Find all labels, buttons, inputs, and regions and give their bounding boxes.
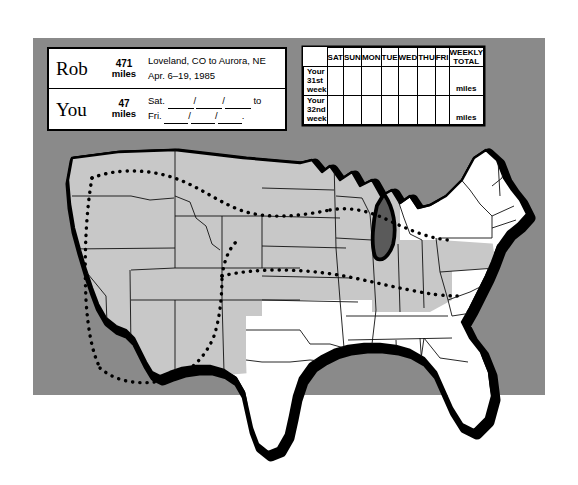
cell-week31-sun[interactable] — [343, 67, 361, 96]
cell-week32-sat[interactable] — [327, 96, 343, 125]
cell-week31-wed[interactable] — [398, 67, 418, 96]
cell-week32-fri[interactable] — [435, 96, 449, 125]
rob-date-text: Apr. 6–19, 1985 — [148, 69, 281, 84]
info-row-rob: Rob 471 miles Loveland, CO to Aurora, NE… — [49, 49, 285, 89]
row-label-week-32: Your 32nd week — [304, 96, 328, 125]
column-header-wed: WED — [398, 48, 418, 67]
you-start-day-label: Sat. — [148, 95, 165, 106]
info-row-you: You 47 miles Sat. // to Fri. //. — [49, 89, 285, 129]
you-miles-unit: miles — [104, 109, 144, 119]
cell-week32-tue[interactable] — [381, 96, 398, 125]
column-header-weekly-total: WEEKLY TOTAL — [449, 48, 483, 67]
rob-route-text: Loveland, CO to Aurora, NE — [148, 54, 281, 69]
you-name-label: You — [49, 100, 104, 119]
you-end-day-blank[interactable] — [191, 123, 215, 124]
row-label-week-31-line3: week — [307, 86, 327, 95]
row-label-week-31: Your 31st week — [304, 67, 328, 96]
weekly-mileage-table: SAT SUN MON TUE WED THU FRI WEEKLY TOTAL… — [303, 47, 484, 125]
weekly-table-header-row: SAT SUN MON TUE WED THU FRI WEEKLY TOTAL — [304, 48, 484, 67]
column-header-sun: SUN — [343, 48, 361, 67]
cell-week31-sat[interactable] — [327, 67, 343, 96]
cell-week32-total[interactable]: miles — [449, 96, 483, 125]
weekly-table-body: Your 31st week miles Your 32nd week — [304, 67, 484, 125]
table-row: Your 31st week miles — [304, 67, 484, 96]
row-label-week-32-line3: week — [307, 115, 327, 124]
cell-week32-thu[interactable] — [418, 96, 435, 125]
rob-name-label: Rob — [49, 59, 104, 78]
cell-week31-thu[interactable] — [418, 67, 435, 96]
weekly-table-head: SAT SUN MON TUE WED THU FRI WEEKLY TOTAL — [304, 48, 484, 67]
rob-miles-unit: miles — [104, 69, 144, 79]
column-header-fri: FRI — [435, 48, 449, 67]
you-start-to-label: to — [253, 95, 261, 106]
rob-miles-block: 471 miles — [104, 59, 144, 79]
cell-week31-tue[interactable] — [381, 67, 398, 96]
you-end-period: . — [242, 110, 245, 121]
you-date-fields: Sat. // to Fri. //. — [144, 94, 285, 123]
you-end-year-blank[interactable] — [218, 123, 242, 124]
cell-week31-total[interactable]: miles — [449, 67, 483, 96]
you-start-date-row: Sat. // to — [148, 94, 281, 109]
column-header-mon: MON — [361, 48, 381, 67]
column-header-thu: THU — [418, 48, 435, 67]
weekly-table-corner-cell — [304, 48, 328, 67]
rob-trip-lines: Loveland, CO to Aurora, NE Apr. 6–19, 19… — [144, 54, 285, 83]
you-miles-block: 47 miles — [104, 99, 144, 119]
table-row: Your 32nd week miles — [304, 96, 484, 125]
you-end-month-blank[interactable] — [164, 123, 188, 124]
cell-week31-mon[interactable] — [361, 67, 381, 96]
cell-week31-fri[interactable] — [435, 67, 449, 96]
cell-week32-wed[interactable] — [398, 96, 418, 125]
column-header-tue: TUE — [381, 48, 398, 67]
cell-week32-sun[interactable] — [343, 96, 361, 125]
you-end-day-label: Fri. — [148, 110, 162, 121]
cell-week32-mon[interactable] — [361, 96, 381, 125]
column-header-sat: SAT — [327, 48, 343, 67]
you-end-date-row: Fri. //. — [148, 109, 281, 124]
trip-info-card: Rob 471 miles Loveland, CO to Aurora, NE… — [47, 47, 287, 131]
